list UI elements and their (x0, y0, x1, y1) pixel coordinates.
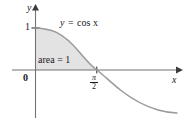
equation-equals-sign: = (67, 17, 75, 28)
x-tick-label-pi-over-two: π 2 (90, 74, 98, 92)
area-annotation-label: area = 1 (38, 55, 70, 65)
y-tick-label-one: 1 (25, 22, 30, 32)
pi-numerator: π (90, 74, 98, 82)
cosine-area-figure: y x 1 0 y = cos x area = 1 π 2 (0, 0, 188, 128)
y-axis-arrowhead (32, 4, 39, 11)
origin-label: 0 (23, 73, 28, 83)
equation-lhs: y (60, 17, 64, 28)
x-axis-arrowhead (176, 66, 183, 73)
curve-equation-label: y = cos x (60, 18, 98, 28)
equation-rhs: cos x (77, 17, 98, 28)
two-denominator: 2 (90, 83, 98, 91)
x-axis-label: x (172, 75, 176, 85)
y-axis-label: y (27, 3, 31, 13)
